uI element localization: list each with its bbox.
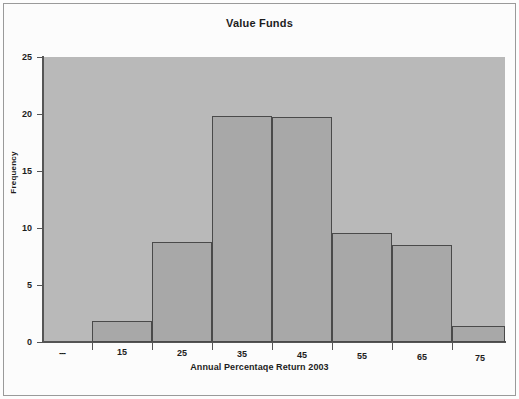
y-axis-line — [42, 56, 44, 343]
bar-65 — [392, 245, 452, 342]
y-tick-label-20: 20 — [4, 109, 32, 119]
x-tick-3 — [272, 343, 273, 350]
bar-35 — [212, 116, 272, 342]
y-tick-15 — [37, 171, 44, 172]
bar-45 — [272, 117, 332, 342]
x-tick-label-2: 25 — [162, 348, 202, 358]
y-tick-label-10: 10 — [4, 223, 32, 233]
x-tick-4 — [332, 343, 333, 350]
bar-55 — [332, 233, 392, 342]
x-tick-label-5: 55 — [342, 351, 382, 361]
page-title: Value Funds — [0, 17, 519, 29]
x-tick-0 — [92, 343, 93, 350]
y-tick-20 — [37, 114, 44, 115]
x-tick-1 — [152, 343, 153, 350]
y-tick-label-0: 0 — [4, 337, 32, 347]
y-tick-10 — [37, 228, 44, 229]
x-tick-label-6: 65 — [402, 352, 442, 362]
x-tick-label-0: --- — [42, 348, 82, 358]
bar-15 — [92, 321, 152, 342]
bar-75 — [452, 326, 505, 342]
x-tick-label-4: 45 — [282, 350, 322, 360]
bar-25 — [152, 242, 212, 342]
x-tick-2 — [212, 343, 213, 350]
x-axis-title: Annual Percentaqe Return 2003 — [0, 362, 519, 372]
histogram-figure: Value Funds 0 5 10 15 20 25 Frequency --… — [0, 0, 519, 399]
y-tick-label-25: 25 — [4, 52, 32, 62]
y-tick-25 — [37, 57, 44, 58]
y-tick-5 — [37, 285, 44, 286]
y-axis-title: Frequency — [9, 138, 18, 208]
y-tick-0 — [37, 342, 44, 343]
x-tick-6 — [452, 343, 453, 350]
x-tick-5 — [392, 343, 393, 350]
x-tick-label-3: 35 — [222, 349, 262, 359]
x-tick-label-1: 15 — [102, 347, 142, 357]
y-tick-label-5: 5 — [4, 280, 32, 290]
